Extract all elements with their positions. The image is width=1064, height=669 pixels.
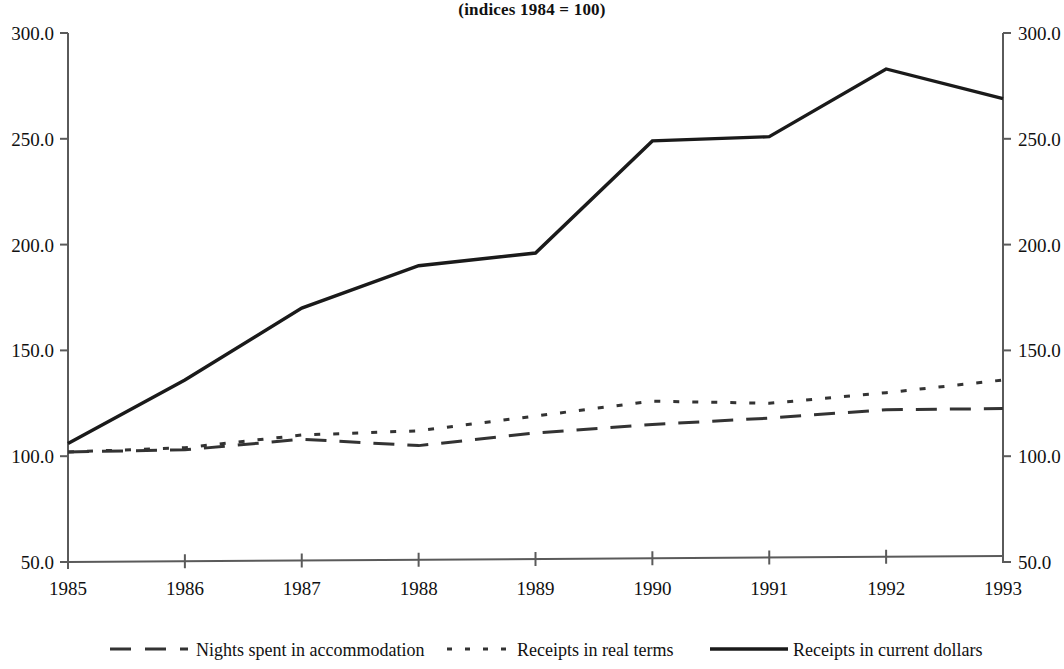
x-axis-tick-label: 1988 bbox=[400, 578, 438, 599]
x-axis-tick-label: 1985 bbox=[49, 578, 87, 599]
x-axis-tick-label: 1987 bbox=[283, 578, 321, 599]
series-line bbox=[68, 409, 1003, 452]
y-axis-left-labels: 300.0250.0200.0150.0100.050.0 bbox=[11, 23, 54, 573]
y-axis-left-tick-label: 150.0 bbox=[11, 340, 54, 361]
y-axis-left-tick-label: 250.0 bbox=[11, 129, 54, 150]
chart-legend: Nights spent in accommodationReceipts in… bbox=[110, 640, 982, 660]
chart-plot-area: 300.0250.0200.0150.0100.050.0 300.0250.0… bbox=[0, 0, 1064, 669]
x-axis-tick-label: 1992 bbox=[867, 578, 905, 599]
x-axis-tick-label: 1991 bbox=[750, 578, 788, 599]
y-axis-right-labels: 300.0250.0200.0150.0100.050.0 bbox=[1018, 23, 1061, 573]
y-axis-right-tick-label: 300.0 bbox=[1018, 23, 1061, 44]
legend-label: Receipts in current dollars bbox=[793, 640, 982, 660]
x-axis-tick-label: 1990 bbox=[633, 578, 671, 599]
x-axis-tick-label: 1989 bbox=[517, 578, 555, 599]
x-axis-tick-label: 1986 bbox=[166, 578, 204, 599]
axes-group bbox=[60, 33, 1011, 569]
series-line bbox=[68, 380, 1003, 452]
y-axis-right-tick-label: 150.0 bbox=[1018, 340, 1061, 361]
y-axis-left-tick-label: 100.0 bbox=[11, 446, 54, 467]
series-line bbox=[68, 69, 1003, 444]
chart-container: (indices 1984 = 100) 300.0250.0200.0150.… bbox=[0, 0, 1064, 669]
y-axis-left-tick-label: 200.0 bbox=[11, 235, 54, 256]
y-axis-right-tick-label: 50.0 bbox=[1018, 552, 1051, 573]
y-axis-left-tick-label: 300.0 bbox=[11, 23, 54, 44]
legend-label: Receipts in real terms bbox=[517, 640, 673, 660]
y-axis-right-tick-label: 200.0 bbox=[1018, 235, 1061, 256]
y-axis-right-tick-label: 250.0 bbox=[1018, 129, 1061, 150]
x-axis-tick-label: 1993 bbox=[984, 578, 1022, 599]
y-axis-right-tick-label: 100.0 bbox=[1018, 446, 1061, 467]
legend-label: Nights spent in accommodation bbox=[196, 640, 424, 660]
x-axis-labels: 198519861987198819891990199119921993 bbox=[49, 578, 1022, 599]
series-group bbox=[68, 69, 1003, 452]
y-axis-left-tick-label: 50.0 bbox=[21, 552, 54, 573]
